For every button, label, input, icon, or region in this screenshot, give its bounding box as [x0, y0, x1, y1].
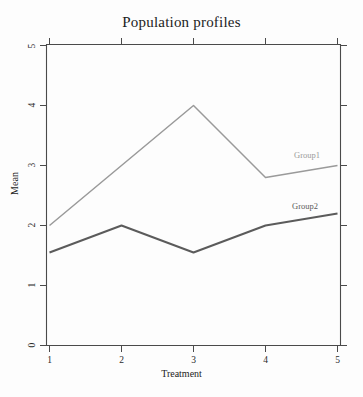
series-line-group2 [50, 214, 338, 253]
y-axis-title: Mean [9, 154, 20, 214]
series-label-group1: Group1 [294, 150, 320, 160]
x-tick-label-1: 1 [47, 355, 52, 365]
y-tick-marks-right [341, 46, 347, 346]
series-label-group2: Group2 [292, 201, 318, 211]
plot-canvas: 0 1 2 3 4 5 1 2 3 4 5 Group [0, 0, 363, 397]
y-tick-marks [40, 46, 46, 346]
y-tick-label-3: 3 [27, 162, 37, 167]
x-axis-title: Treatment [0, 368, 363, 379]
x-tick-label-3: 3 [191, 355, 196, 365]
y-tick-label-1: 1 [27, 282, 37, 287]
x-tick-label-4: 4 [263, 355, 268, 365]
x-tick-marks [50, 346, 338, 352]
x-tick-label-5: 5 [335, 355, 340, 365]
y-tick-label-4: 4 [27, 102, 37, 107]
x-tick-marks-top [50, 38, 338, 44]
x-tick-label-2: 2 [119, 355, 124, 365]
y-tick-label-2: 2 [27, 222, 37, 227]
y-tick-label-0: 0 [27, 342, 37, 347]
y-tick-label-5: 5 [27, 43, 37, 48]
chart-figure: Population profiles 0 1 [0, 0, 363, 397]
